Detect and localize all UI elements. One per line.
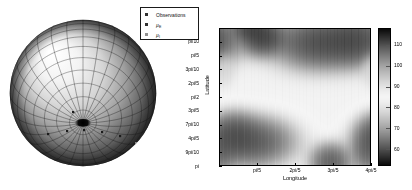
y-tick-mark (219, 83, 222, 84)
heatmap-canvas (220, 29, 370, 165)
legend-label-mu-i: µI (156, 32, 160, 40)
colorbar-tick-label: 80 (394, 105, 400, 110)
legend-marker-observations (145, 13, 148, 16)
colorbar-tick-label: 90 (394, 84, 400, 89)
colorbar-tick-mark (386, 149, 390, 150)
colorbar (378, 28, 391, 166)
x-tick-mark (257, 163, 258, 166)
y-tick-mark (219, 69, 222, 70)
legend-marker-mu-e (145, 23, 148, 26)
y-tick-mark (219, 42, 222, 43)
colorbar-tick-mark (386, 87, 390, 88)
sphere-panel: Observations µE µI (0, 0, 200, 190)
x-tick-mark (333, 163, 334, 166)
legend-row-observations: Observations (141, 10, 198, 19)
y-tick-label: pi (195, 164, 199, 169)
x-axis-label: Longitude (219, 175, 371, 181)
y-tick-label: 7pi/10 (185, 122, 199, 127)
colorbar-tick-label: 60 (394, 147, 400, 152)
plot-legend: Observations µE µI (140, 7, 199, 40)
legend-row-mu-e: µE (141, 20, 198, 29)
figure-root: Observations µE µI pi/10pi/53pi/102pi/5p… (0, 0, 412, 190)
y-tick-mark (219, 138, 222, 139)
y-tick-mark (219, 166, 222, 167)
colorbar-tick-label: 110 (394, 42, 402, 47)
legend-label-mu-i-sub: I (159, 35, 160, 39)
y-tick-label: 4pi/5 (188, 136, 199, 141)
x-tick-label: 4pi/5 (366, 168, 377, 173)
y-tick-label: 9pi/10 (185, 150, 199, 155)
x-tick-mark (295, 163, 296, 166)
sphere-canvas (9, 7, 157, 179)
y-tick-label: 3pi/5 (188, 108, 199, 113)
heatmap-panel: pi/10pi/53pi/102pi/5pi/23pi/57pi/104pi/5… (200, 0, 412, 190)
y-tick-mark (219, 111, 222, 112)
colorbar-tick-mark (386, 107, 390, 108)
colorbar-tick-label: 100 (394, 63, 402, 68)
colorbar-tick-label: 70 (394, 126, 400, 131)
legend-marker-mu-i (145, 33, 148, 36)
x-tick-label: 3pi/5 (328, 168, 339, 173)
y-tick-mark (219, 97, 222, 98)
legend-label-observations: Observations (156, 12, 185, 18)
legend-label-mu-e-sub: E (159, 25, 161, 29)
colorbar-tick-mark (386, 66, 390, 67)
y-tick-label: 2pi/5 (188, 81, 199, 86)
y-tick-label: pi/10 (188, 39, 199, 44)
y-tick-mark (219, 125, 222, 126)
y-tick-label: pi/5 (191, 53, 199, 58)
heatmap-axes (219, 28, 371, 166)
colorbar-canvas (379, 29, 390, 165)
x-tick-mark (371, 163, 372, 166)
y-tick-label: pi/2 (191, 95, 199, 100)
y-tick-mark (219, 56, 222, 57)
x-tick-label: pi/5 (253, 168, 261, 173)
legend-label-mu-e: µE (156, 22, 161, 30)
y-axis-label: Latitude (204, 65, 210, 105)
y-tick-label: 3pi/10 (185, 67, 199, 72)
y-tick-mark (219, 152, 222, 153)
x-tick-label: 2pi/5 (290, 168, 301, 173)
colorbar-tick-mark (386, 45, 390, 46)
sphere-plot (9, 7, 157, 179)
colorbar-tick-mark (386, 128, 390, 129)
